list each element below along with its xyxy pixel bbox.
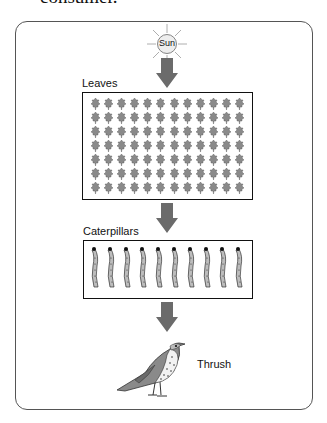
caterpillar-icon: [138, 246, 150, 294]
leaf-icon: [128, 139, 141, 153]
leaf-icon: [154, 167, 167, 181]
leaf-icon: [128, 111, 141, 125]
energy-arrow-icon: [156, 203, 178, 233]
leaf-icon: [194, 181, 207, 195]
leaf-icon: [194, 125, 207, 139]
leaf-icon: [194, 139, 207, 153]
leaf-icon: [141, 97, 154, 111]
leaf-icon: [141, 167, 154, 181]
leaf-icon: [115, 125, 128, 139]
leaf-icon: [220, 167, 233, 181]
leaf-icon: [233, 139, 246, 153]
caterpillar-icon: [186, 246, 198, 294]
leaf-icon: [115, 153, 128, 167]
leaf-icon: [154, 181, 167, 195]
leaf-icon: [220, 111, 233, 125]
leaf-icon: [181, 153, 194, 167]
leaf-icon: [154, 125, 167, 139]
leaf-icon: [167, 111, 180, 125]
leaf-icon: [102, 139, 115, 153]
leaf-icon: [115, 97, 128, 111]
leaf-icon: [207, 111, 220, 125]
leaf-icon: [141, 181, 154, 195]
leaf-icon: [128, 167, 141, 181]
leaf-icon: [154, 153, 167, 167]
leaf-icon: [233, 125, 246, 139]
leaves-grid: [83, 93, 252, 199]
leaf-icon: [207, 167, 220, 181]
leaves-box: [82, 92, 253, 200]
leaf-icon: [207, 181, 220, 195]
leaf-icon: [220, 153, 233, 167]
leaf-icon: [141, 139, 154, 153]
leaf-icon: [167, 153, 180, 167]
leaf-icon: [181, 97, 194, 111]
leaf-icon: [89, 97, 102, 111]
leaf-icon: [181, 139, 194, 153]
leaf-icon: [167, 181, 180, 195]
leaf-icon: [89, 139, 102, 153]
leaf-icon: [141, 125, 154, 139]
leaf-icon: [115, 111, 128, 125]
leaf-icon: [115, 181, 128, 195]
leaf-icon: [102, 111, 115, 125]
caterpillar-icon: [122, 246, 134, 294]
leaf-icon: [233, 97, 246, 111]
caption-text: consumer.: [40, 0, 118, 8]
caterpillar-icon: [154, 246, 166, 294]
caterpillar-icon: [90, 246, 102, 294]
leaf-icon: [89, 111, 102, 125]
leaf-icon: [115, 167, 128, 181]
leaf-icon: [89, 181, 102, 195]
leaf-icon: [194, 111, 207, 125]
leaf-icon: [220, 139, 233, 153]
caterpillar-icon: [218, 246, 230, 294]
caterpillar-icon: [202, 246, 214, 294]
leaf-icon: [167, 125, 180, 139]
leaf-icon: [194, 167, 207, 181]
leaf-icon: [89, 167, 102, 181]
leaf-icon: [102, 181, 115, 195]
leaf-icon: [167, 167, 180, 181]
leaf-icon: [128, 125, 141, 139]
caterpillar-icon: [170, 246, 182, 294]
energy-arrow-icon: [156, 58, 178, 88]
leaf-icon: [181, 111, 194, 125]
caterpillars-label: Caterpillars: [83, 225, 139, 237]
leaf-icon: [233, 167, 246, 181]
leaf-icon: [115, 139, 128, 153]
leaf-icon: [220, 181, 233, 195]
leaf-icon: [220, 97, 233, 111]
leaf-icon: [167, 139, 180, 153]
leaf-icon: [154, 111, 167, 125]
leaf-icon: [141, 111, 154, 125]
leaf-icon: [154, 139, 167, 153]
leaf-icon: [181, 181, 194, 195]
caterpillars-box: [83, 240, 253, 299]
leaf-icon: [233, 111, 246, 125]
caterpillars-row: [84, 241, 252, 298]
leaf-icon: [89, 153, 102, 167]
leaf-icon: [167, 97, 180, 111]
leaf-icon: [128, 153, 141, 167]
caterpillar-icon: [106, 246, 118, 294]
thrush-bird-icon: [115, 335, 190, 400]
leaf-icon: [128, 181, 141, 195]
leaf-icon: [233, 153, 246, 167]
caterpillar-icon: [234, 246, 246, 294]
leaf-icon: [194, 153, 207, 167]
leaf-icon: [102, 125, 115, 139]
sun-label: Sun: [157, 38, 177, 48]
leaf-icon: [207, 97, 220, 111]
leaf-icon: [207, 153, 220, 167]
energy-arrow-icon: [156, 302, 178, 332]
leaf-icon: [233, 181, 246, 195]
leaf-icon: [154, 97, 167, 111]
leaves-label: Leaves: [82, 77, 117, 89]
leaf-icon: [89, 125, 102, 139]
leaf-icon: [102, 167, 115, 181]
leaf-icon: [181, 125, 194, 139]
thrush-label: Thrush: [197, 358, 231, 370]
leaf-icon: [102, 153, 115, 167]
leaf-icon: [128, 97, 141, 111]
